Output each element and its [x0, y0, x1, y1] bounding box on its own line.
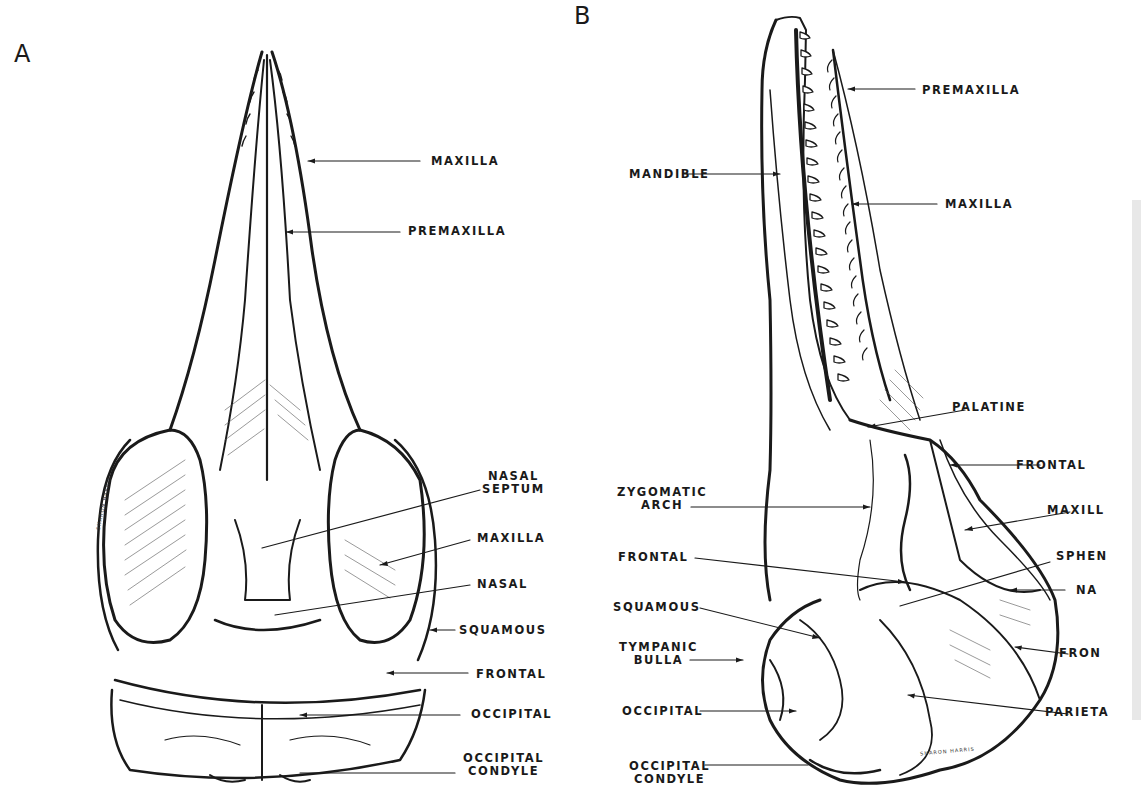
label-a-nasal: NASAL	[477, 578, 528, 591]
label-b-occipital: OCCIPITAL	[622, 705, 703, 718]
label-b-frontal-cut: FRON	[1059, 647, 1102, 660]
label-a-nasal-septum-line2: SEPTUM	[482, 483, 545, 496]
panel-letter-a: A	[14, 40, 30, 68]
label-b-maxilla-cut: MAXILL	[1047, 504, 1105, 517]
label-a-occipital-condyle: OCCIPITAL CONDYLE	[463, 752, 544, 778]
label-a-nasal-septum: NASAL SEPTUM	[482, 470, 545, 496]
label-a-maxilla-2: MAXILLA	[477, 532, 545, 545]
label-b-sphenoid-cut: SPHEN	[1056, 550, 1108, 563]
label-b-palatine: PALATINE	[952, 401, 1026, 414]
label-b-tympanic-bulla: TYMPANIC BULLA	[619, 641, 698, 667]
label-a-premaxilla: PREMAXILLA	[408, 225, 506, 238]
label-b-occipital-condyle: OCCIPITAL CONDYLE	[629, 760, 710, 786]
label-a-occipital-condyle-line2: CONDYLE	[463, 765, 544, 778]
label-b-squamous: SQUAMOUS	[613, 601, 701, 614]
label-a-frontal: FRONTAL	[476, 668, 547, 681]
label-b-premaxilla: PREMAXILLA	[922, 84, 1020, 97]
label-b-zygomatic-arch: ZYGOMATIC ARCH	[617, 486, 707, 512]
label-a-maxilla: MAXILLA	[431, 155, 499, 168]
label-b-occipital-condyle-line2: CONDYLE	[629, 773, 710, 786]
label-b-maxilla: MAXILLA	[945, 198, 1013, 211]
label-b-parietal-cut: PARIETA	[1045, 706, 1109, 719]
label-b-zygomatic-arch-line2: ARCH	[617, 499, 707, 512]
label-a-squamous: SQUAMOUS	[459, 624, 547, 637]
label-a-occipital: OCCIPITAL	[471, 708, 552, 721]
label-b-frontal-left: FRONTAL	[618, 551, 689, 564]
label-b-tympanic-bulla-line2: BULLA	[619, 654, 698, 667]
label-b-nasal-cut: NA	[1076, 584, 1098, 597]
label-b-frontal-right: FRONTAL	[1016, 459, 1087, 472]
panel-letter-b: B	[574, 2, 590, 30]
label-b-mandible: MANDIBLE	[629, 168, 710, 181]
skull-a-drawing	[98, 52, 480, 782]
